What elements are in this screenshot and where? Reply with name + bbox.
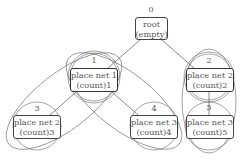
node-2-line2: (count)2	[193, 80, 228, 90]
node-3-line2: (count)3	[20, 127, 55, 137]
node-3-line1: place net 2	[14, 117, 60, 127]
edge-0-1	[108, 40, 140, 68]
node-2: place net 2 (count)2	[186, 68, 234, 92]
node-index-1: 1	[84, 56, 104, 65]
node-root: root (empty)	[135, 17, 168, 40]
node-2-line1: place net 2	[187, 70, 233, 80]
node-1: place net 1 (count)1	[70, 68, 118, 92]
node-root-line2: (empty)	[135, 29, 167, 39]
node-index-5: 5	[199, 103, 219, 112]
node-index-0: 0	[141, 5, 161, 14]
node-1-line2: (count)1	[77, 80, 112, 90]
node-4-line2: (count)4	[137, 127, 172, 137]
node-3: place net 2 (count)3	[13, 115, 61, 139]
node-5-line1: place net 3	[187, 117, 233, 127]
node-index-2: 2	[199, 56, 219, 65]
node-4-line1: place net 3	[131, 117, 177, 127]
edge-0-2	[162, 40, 194, 68]
node-index-4: 4	[144, 104, 164, 113]
edge-1-4	[112, 92, 138, 115]
edge-1-3	[50, 92, 76, 115]
cluster-ellipse-1-4	[52, 36, 197, 165]
node-5: place net 3 (count)5	[186, 115, 234, 139]
node-4: place net 3 (count)4	[130, 115, 178, 139]
node-1-line1: place net 1	[71, 70, 117, 80]
node-root-line1: root	[143, 19, 160, 29]
cluster-ellipse-1-3	[0, 36, 136, 165]
node-5-line2: (count)5	[193, 127, 228, 137]
node-index-3: 3	[27, 104, 47, 113]
